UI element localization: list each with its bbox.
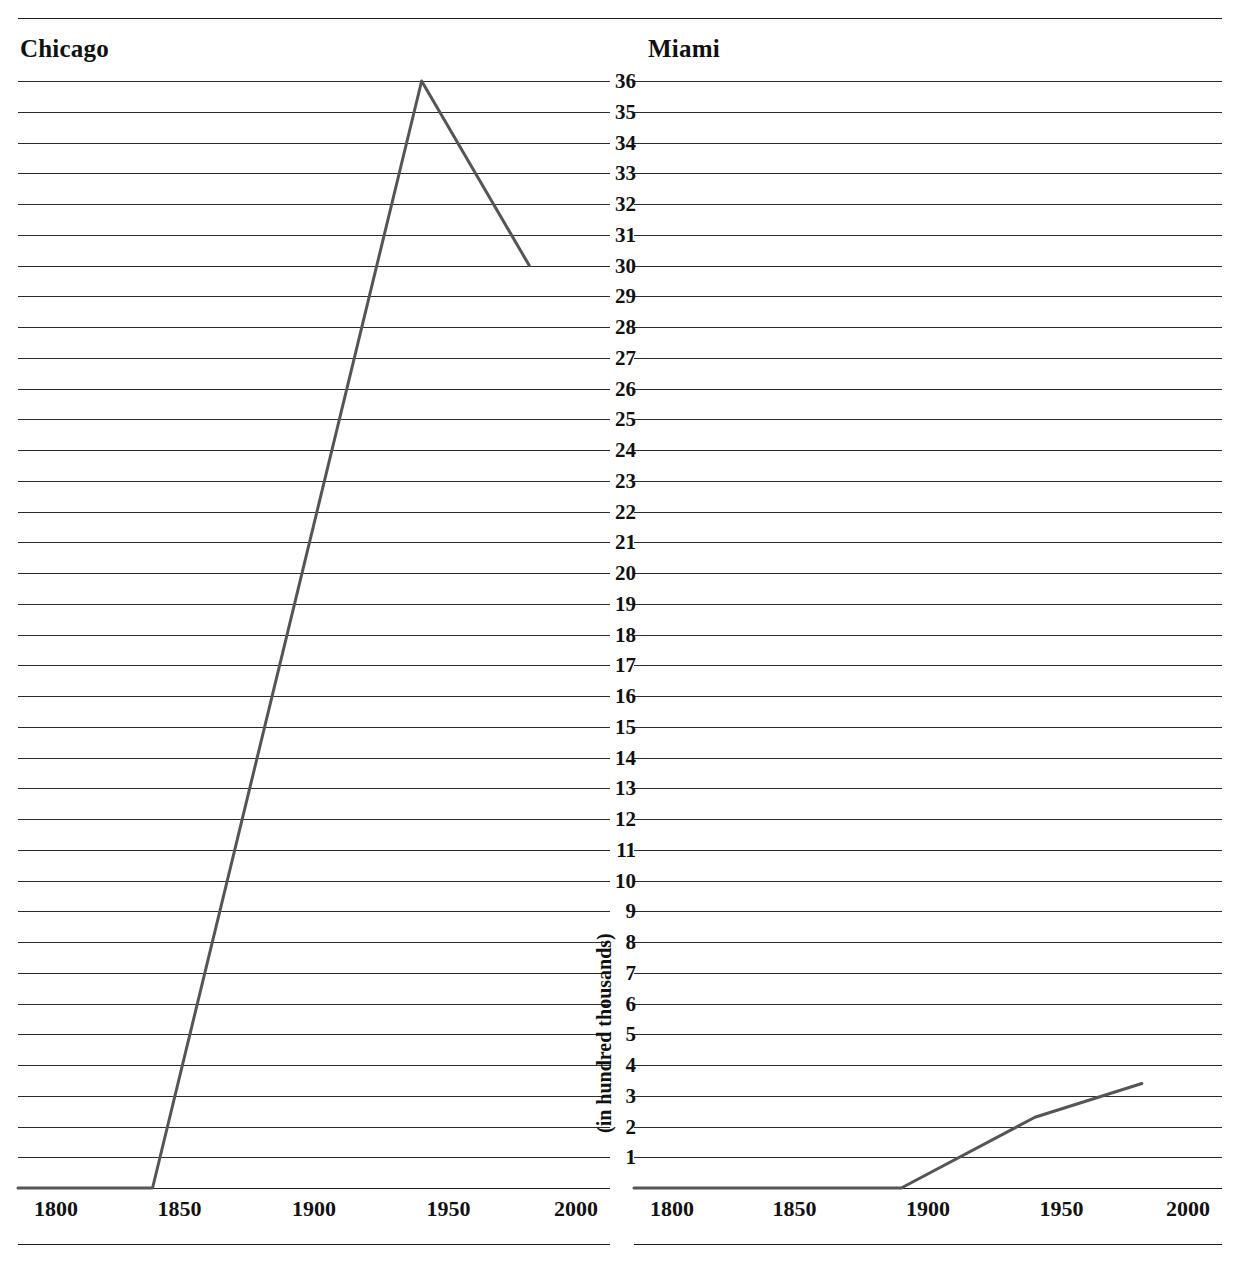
plot-area-chicago — [18, 78, 610, 1188]
x-axis-tick-label: 1800 — [34, 1198, 78, 1220]
x-axis-bottom-rule-chicago — [18, 1244, 610, 1245]
y-axis-tick-label: 5 — [626, 1024, 637, 1045]
y-axis-tick-label: 30 — [615, 255, 636, 276]
population-growth-figure: Chicago Miami (in hundred thousands) 363… — [0, 0, 1245, 1263]
x-axis-tick-label: 1900 — [292, 1198, 336, 1220]
y-axis-tick-label: 23 — [615, 470, 636, 491]
x-axis-tick-label: 1900 — [906, 1198, 950, 1220]
y-axis-tick-label: 3 — [626, 1085, 637, 1106]
y-axis-tick-label: 36 — [615, 71, 636, 92]
y-axis-tick-label: 19 — [615, 593, 636, 614]
y-axis-tick-label: 25 — [615, 409, 636, 430]
panel-title-chicago: Chicago — [20, 36, 109, 61]
y-axis-tick-label: 12 — [615, 809, 636, 830]
y-axis-tick-label: 20 — [615, 563, 636, 584]
y-axis-tick-label: 4 — [626, 1055, 637, 1076]
y-axis-tick-label: 21 — [615, 532, 636, 553]
y-axis: (in hundred thousands) 36353433323130292… — [596, 78, 644, 1188]
y-axis-tick-label: 28 — [615, 317, 636, 338]
y-axis-tick-label: 7 — [626, 962, 637, 983]
y-axis-tick-label: 16 — [615, 686, 636, 707]
y-axis-caption: (in hundred thousands) — [594, 933, 614, 1133]
x-axis-bottom-rule-miami — [634, 1244, 1222, 1245]
data-series-polyline — [634, 1083, 1142, 1188]
y-axis-tick-label: 18 — [615, 624, 636, 645]
y-axis-tick-label: 8 — [626, 932, 637, 953]
y-axis-tick-label: 2 — [626, 1116, 637, 1137]
data-line-miami — [634, 78, 1222, 1188]
y-axis-tick-label: 34 — [615, 132, 636, 153]
y-axis-tick-label: 33 — [615, 163, 636, 184]
x-axis-tick-label: 2000 — [554, 1198, 598, 1220]
y-axis-tick-label: 10 — [615, 870, 636, 891]
y-axis-tick-label: 27 — [615, 347, 636, 368]
y-axis-tick-label: 22 — [615, 501, 636, 522]
x-axis-tick-label: 1800 — [650, 1198, 694, 1220]
data-line-chicago — [18, 78, 610, 1188]
y-axis-tick-label: 11 — [616, 839, 636, 860]
x-axis-tick-label: 1950 — [427, 1198, 471, 1220]
y-axis-tick-label: 9 — [626, 901, 637, 922]
y-axis-tick-label: 24 — [615, 440, 636, 461]
y-axis-tick-label: 6 — [626, 993, 637, 1014]
panel-title-miami: Miami — [648, 36, 720, 61]
y-axis-tick-label: 17 — [615, 655, 636, 676]
y-axis-tick-label: 1 — [626, 1147, 637, 1168]
top-rule — [18, 18, 1222, 19]
x-axis-chicago: 18001850190019502000 — [18, 1188, 610, 1246]
y-axis-tick-label: 31 — [615, 224, 636, 245]
x-axis-miami: 18001850190019502000 — [634, 1188, 1222, 1246]
plot-area-miami — [634, 78, 1222, 1188]
y-axis-tick-label: 13 — [615, 778, 636, 799]
y-axis-tick-label: 32 — [615, 194, 636, 215]
y-axis-tick-label: 15 — [615, 716, 636, 737]
x-axis-tick-label: 1850 — [158, 1198, 202, 1220]
x-axis-tick-label: 2000 — [1166, 1198, 1210, 1220]
x-axis-tick-label: 1950 — [1040, 1198, 1084, 1220]
data-series-polyline — [18, 81, 529, 1188]
x-axis-tick-label: 1850 — [772, 1198, 816, 1220]
y-axis-tick-label: 35 — [615, 101, 636, 122]
y-axis-tick-label: 14 — [615, 747, 636, 768]
y-axis-tick-label: 26 — [615, 378, 636, 399]
y-axis-tick-label: 29 — [615, 286, 636, 307]
